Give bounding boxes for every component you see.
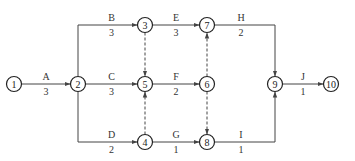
node-9: 9: [268, 77, 283, 92]
node-1: 1: [7, 77, 22, 92]
activity-name-i: I: [239, 129, 242, 140]
activity-arrow-i: [215, 92, 276, 142]
network-diagram: 12345678910 A3B3C3D2E3F2G1H2I1J1: [0, 0, 355, 161]
activity-duration-b: 3: [109, 27, 114, 38]
activity-duration-d: 2: [109, 144, 114, 155]
activity-name-g: G: [172, 129, 179, 140]
node-label: 6: [205, 79, 210, 90]
activity-duration-e: 3: [174, 27, 179, 38]
node-label: 10: [326, 79, 336, 90]
activity-name-d: D: [108, 129, 115, 140]
activity-name-e: E: [173, 12, 179, 23]
node-8: 8: [200, 135, 215, 150]
activity-duration-j: 1: [301, 86, 306, 97]
activity-name-j: J: [301, 71, 305, 82]
activity-name-c: C: [108, 71, 115, 82]
node-label: 8: [205, 137, 210, 148]
node-2: 2: [71, 77, 86, 92]
activity-name-f: F: [173, 71, 179, 82]
activity-name-h: H: [237, 12, 244, 23]
node-label: 1: [12, 79, 17, 90]
activity-duration-i: 1: [239, 144, 244, 155]
node-label: 3: [143, 20, 148, 31]
node-3: 3: [138, 18, 153, 33]
node-5: 5: [138, 77, 153, 92]
node-label: 7: [205, 20, 210, 31]
activity-arrow-h: [215, 25, 276, 76]
activity-name-a: A: [42, 71, 50, 82]
node-7: 7: [200, 18, 215, 33]
activity-duration-g: 1: [174, 144, 179, 155]
activity-duration-c: 3: [109, 86, 114, 97]
node-6: 6: [200, 77, 215, 92]
activity-name-b: B: [108, 12, 115, 23]
node-10: 10: [324, 77, 339, 92]
activity-duration-f: 2: [174, 86, 179, 97]
node-4: 4: [138, 135, 153, 150]
node-label: 2: [76, 79, 81, 90]
activity-arrow-b: [78, 25, 137, 77]
node-label: 4: [143, 137, 148, 148]
node-label: 5: [143, 79, 148, 90]
network-diagram-svg: 12345678910 A3B3C3D2E3F2G1H2I1J1: [0, 0, 355, 161]
activity-duration-a: 3: [44, 86, 49, 97]
activity-duration-h: 2: [239, 27, 244, 38]
node-label: 9: [273, 79, 278, 90]
